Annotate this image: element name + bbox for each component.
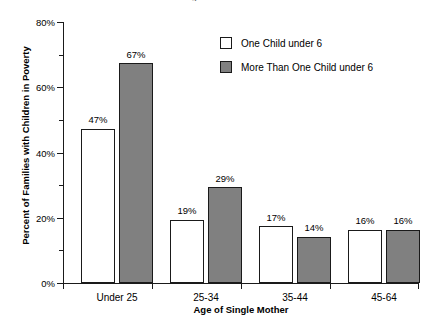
bar-value-more-than-one-45-64: 16% — [393, 215, 412, 226]
bar-value-one-child-under-25: 47% — [88, 114, 107, 125]
x-group-tick-3 — [330, 283, 331, 289]
bar-more-than-one-under-25 — [119, 63, 153, 283]
y-tick-label-20: 20% — [36, 212, 55, 223]
y-tick-40 — [57, 153, 63, 154]
x-group-tick-1 — [152, 283, 153, 289]
x-axis-title: Age of Single Mother — [63, 304, 419, 315]
y-tick-60 — [57, 87, 63, 88]
x-group-tick-4 — [418, 283, 419, 289]
bar-chart: Age of Mother Percent of Families with C… — [0, 0, 428, 325]
legend-item-one-child: One Child under 6 — [220, 33, 373, 53]
bar-more-than-one-45-64 — [386, 230, 420, 283]
y-tick-80 — [57, 22, 63, 23]
y-axis-line — [63, 22, 64, 284]
legend-label-more-than-one-child: More Than One Child under 6 — [241, 62, 373, 73]
white-square-swatch-icon — [220, 37, 232, 49]
x-group-tick-0 — [63, 283, 64, 289]
chart-title: Age of Mother — [0, 0, 428, 1]
bar-one-child-45-64 — [348, 230, 382, 283]
bar-value-one-child-25-34: 19% — [177, 205, 196, 216]
y-minor-tick-10 — [59, 250, 63, 251]
bar-one-child-25-34 — [170, 220, 204, 283]
bar-more-than-one-35-44 — [297, 237, 331, 283]
y-tick-20 — [57, 218, 63, 219]
y-minor-tick-50 — [59, 120, 63, 121]
y-tick-label-40: 40% — [36, 147, 55, 158]
bar-one-child-under-25 — [81, 129, 115, 283]
x-category-label-25-34: 25-34 — [193, 292, 219, 303]
bar-one-child-35-44 — [259, 226, 293, 283]
gray-square-swatch-icon — [220, 61, 232, 73]
legend-item-more-than-one-child: More Than One Child under 6 — [220, 57, 373, 77]
x-category-label-under-25: Under 25 — [96, 292, 137, 303]
y-tick-label-80: 80% — [36, 17, 55, 28]
x-category-label-35-44: 35-44 — [282, 292, 308, 303]
bar-value-one-child-35-44: 17% — [266, 212, 285, 223]
x-group-tick-2 — [241, 283, 242, 289]
y-tick-label-0: 0% — [41, 278, 55, 289]
bar-value-more-than-one-35-44: 14% — [304, 222, 323, 233]
y-axis-title: Percent of Families with Children in Pov… — [20, 16, 31, 276]
x-category-label-45-64: 45-64 — [371, 292, 397, 303]
bar-value-more-than-one-under-25: 67% — [126, 49, 145, 60]
bar-value-one-child-45-64: 16% — [355, 215, 374, 226]
legend-label-one-child: One Child under 6 — [241, 38, 322, 49]
bar-value-more-than-one-25-34: 29% — [215, 173, 234, 184]
chart-legend: One Child under 6 More Than One Child un… — [220, 33, 373, 81]
bar-more-than-one-25-34 — [208, 187, 242, 283]
y-tick-label-60: 60% — [36, 82, 55, 93]
y-minor-tick-30 — [59, 185, 63, 186]
y-minor-tick-70 — [59, 55, 63, 56]
